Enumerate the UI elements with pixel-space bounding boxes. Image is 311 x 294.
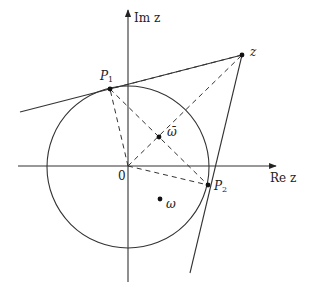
label-z: z xyxy=(250,46,256,58)
real-axis-label: Re z xyxy=(270,172,296,184)
dashed-0-to-z xyxy=(128,55,242,166)
tangent-line-p1 xyxy=(20,55,242,112)
origin-label: 0 xyxy=(118,170,126,182)
diagram-graphics xyxy=(0,0,311,294)
label-omega-bar: ω̄ xyxy=(167,126,177,138)
point-p1 xyxy=(108,87,113,92)
p2-letter: P xyxy=(214,179,222,193)
label-p2: P2 xyxy=(214,180,227,194)
point-p2 xyxy=(206,183,211,188)
tangent-line-p2 xyxy=(190,55,242,273)
label-omega: ω xyxy=(166,198,176,210)
p1-subscript: 1 xyxy=(108,75,113,84)
p1-letter: P xyxy=(100,69,108,83)
point-omega-bar xyxy=(157,135,162,140)
p2-subscript: 2 xyxy=(222,185,227,194)
dashed-0-to-p1 xyxy=(110,89,128,166)
label-p1: P1 xyxy=(100,70,113,84)
complex-plane-diagram: Im z Re z 0 z P1 P2 ω̄ ω xyxy=(0,0,311,294)
point-z xyxy=(240,53,245,58)
imag-axis-label: Im z xyxy=(134,12,160,24)
dashed-0-to-p2 xyxy=(128,166,208,185)
point-omega xyxy=(158,197,163,202)
